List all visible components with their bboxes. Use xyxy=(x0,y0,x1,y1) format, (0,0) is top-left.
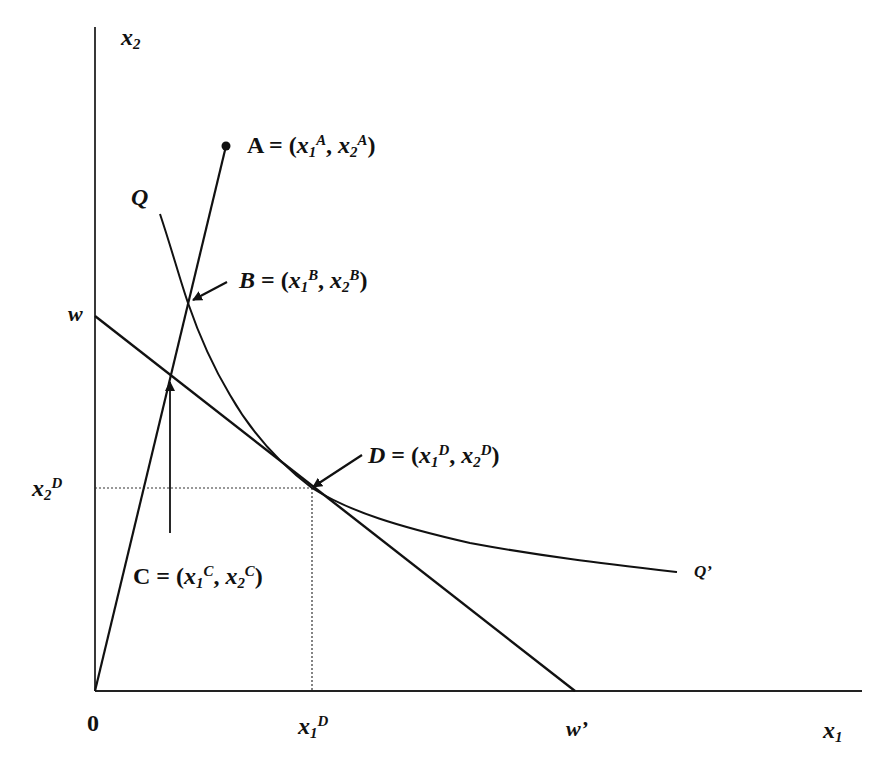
point-D-x2: x xyxy=(461,442,473,468)
budget-line xyxy=(95,316,575,691)
point-B-sup1: B xyxy=(308,267,318,283)
y-tick-x2D-sup: D xyxy=(51,475,62,491)
y-axis-label-base: x xyxy=(121,24,133,50)
y-tick-w: w xyxy=(68,303,83,325)
point-A-x1: x xyxy=(297,132,309,158)
point-C-eq: = ( xyxy=(150,563,184,589)
point-D-sup1: D xyxy=(438,442,449,458)
point-A-letter: A xyxy=(247,132,263,158)
point-D-sub2: 2 xyxy=(473,454,480,470)
x-axis-label-sub: 1 xyxy=(835,729,842,745)
diagram-canvas xyxy=(0,0,884,769)
point-C-x2: x xyxy=(225,563,237,589)
point-D-letter: D xyxy=(368,442,385,468)
arrow-to-B xyxy=(193,282,227,300)
point-C-comma: , xyxy=(213,563,225,589)
point-A-x2: x xyxy=(338,132,350,158)
point-C-label: C = (x1C, x2C) xyxy=(133,564,263,588)
point-C-sup2: C xyxy=(245,563,255,579)
point-B-x2: x xyxy=(330,267,342,293)
x-tick-w-prime: w’ xyxy=(566,718,588,740)
point-B-sub1: 1 xyxy=(301,279,308,295)
x-tick-x1D-base: x xyxy=(298,713,310,739)
point-C-x1: x xyxy=(184,563,196,589)
point-D-comma: , xyxy=(449,442,461,468)
point-B-label: B = (x1B, x2B) xyxy=(239,268,367,292)
isoquant-label-Q-prime: Q’ xyxy=(694,563,712,580)
point-D-eq: = ( xyxy=(385,442,419,468)
y-tick-x2D: x2D xyxy=(32,476,62,500)
point-A-sup2: A xyxy=(357,132,367,148)
point-B-eq: = ( xyxy=(255,267,289,293)
x-tick-x1D: x1D xyxy=(298,714,328,738)
isoquant-curve xyxy=(160,214,677,572)
y-axis-label: x2 xyxy=(121,25,140,49)
x-axis-label-base: x xyxy=(823,717,835,743)
point-A-close: ) xyxy=(367,132,375,158)
point-B-close: ) xyxy=(359,267,367,293)
point-C-close: ) xyxy=(255,563,263,589)
point-C-sup1: C xyxy=(203,563,213,579)
isoquant-label-Q: Q xyxy=(131,185,148,209)
point-A-comma: , xyxy=(326,132,338,158)
point-A-eq: = ( xyxy=(263,132,297,158)
point-B-comma: , xyxy=(318,267,330,293)
x-axis-label: x1 xyxy=(823,718,842,742)
point-B-sup2: B xyxy=(349,267,359,283)
origin-label: 0 xyxy=(87,711,99,735)
point-D-sup2: D xyxy=(481,442,492,458)
point-A-dot xyxy=(222,142,231,151)
point-D-x1: x xyxy=(419,442,431,468)
y-axis-label-sub: 2 xyxy=(133,36,140,52)
ray-origin-to-A xyxy=(95,146,226,691)
point-A-sub1: 1 xyxy=(309,144,316,160)
point-C-letter: C xyxy=(133,563,150,589)
arrow-to-D xyxy=(313,455,362,487)
point-D-close: ) xyxy=(491,442,499,468)
point-A-sup1: A xyxy=(316,132,326,148)
point-B-x1: x xyxy=(289,267,301,293)
y-tick-x2D-base: x xyxy=(32,475,44,501)
x-tick-x1D-sup: D xyxy=(317,713,328,729)
point-A-label: A = (x1A, x2A) xyxy=(247,133,375,157)
point-D-label: D = (x1D, x2D) xyxy=(368,443,499,467)
point-C-sub2: 2 xyxy=(237,575,244,591)
point-B-letter: B xyxy=(239,267,255,293)
